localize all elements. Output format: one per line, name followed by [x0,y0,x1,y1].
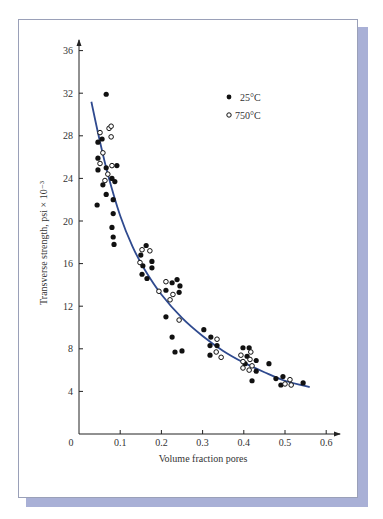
y-axis-arrow-icon [77,39,82,46]
open-circle-marker [148,249,153,254]
open-circle-marker [283,382,288,387]
open-circle-marker [109,124,114,129]
filled-circle-marker [95,156,100,161]
open-circle-marker [110,163,115,168]
x-tick-label: 0 [69,437,74,448]
open-circle-marker [98,130,103,135]
y-tick-label: 16 [63,258,73,269]
x-tick-label: 0.5 [279,437,292,448]
filled-circle-marker [301,380,306,385]
open-circle-marker [219,355,224,360]
x-tick-label: 0.4 [238,437,251,448]
x-tick-label: 0.3 [196,437,209,448]
filled-circle-marker [207,343,212,348]
open-circle-marker [249,350,254,355]
filled-circle-marker [144,243,149,248]
x-axis-title: Volume fraction pores [159,453,248,464]
filled-circle-marker [273,376,278,381]
open-circle-marker [214,350,219,355]
filled-circle-marker [177,290,182,295]
filled-circle-marker [214,343,219,348]
filled-circle-marker [163,314,168,319]
filled-circle-marker [174,277,179,282]
open-circle-marker [289,383,294,388]
y-tick-label: 28 [63,130,73,141]
filled-circle-marker [138,252,143,257]
filled-circle-marker [144,276,149,281]
filled-circle-marker [149,265,154,270]
open-circle-marker [157,289,162,294]
filled-circle-marker [114,163,119,168]
open-circle-marker [109,135,114,140]
legend-open-circle-icon [227,113,231,117]
x-axis-arrow-icon [334,432,341,437]
filled-circle-marker [207,353,212,358]
scatter-chart: 00.10.20.30.40.50.64812162024283236 25°C… [0,0,383,519]
y-axis-title: Transverse strength, psi × 10⁻³ [38,181,49,305]
legend-label: 25°C [240,92,261,103]
open-circle-marker [248,357,253,362]
open-circle-marker [168,298,173,303]
open-circle-marker [247,368,252,373]
filled-circle-marker [179,348,184,353]
open-circle-marker [101,151,106,156]
filled-circle-marker [266,361,271,366]
legend-label: 750°C [235,110,261,121]
filled-circle-marker [170,334,175,339]
filled-circle-marker [104,192,109,197]
y-tick-label: 4 [68,386,73,397]
open-circle-marker [241,359,246,364]
open-circle-marker [106,172,111,177]
y-tick-label: 20 [63,216,73,227]
filled-circle-marker [111,242,116,247]
y-tick-label: 32 [63,88,73,99]
x-tick-label: 0.2 [155,437,168,448]
open-circle-marker [138,260,143,265]
open-circle-marker [140,247,145,252]
filled-circle-marker [111,197,116,202]
filled-circle-marker [139,272,144,277]
fit-curve-line [91,102,309,387]
filled-circle-marker [149,259,154,264]
filled-circle-marker [280,374,285,379]
open-circle-marker [239,353,244,358]
open-circle-marker [164,279,169,284]
open-circle-marker [241,366,246,371]
open-circle-marker [177,318,182,323]
filled-circle-marker [95,140,100,145]
open-circle-marker [103,178,108,183]
axes: 00.10.20.30.40.50.64812162024283236 [63,39,341,448]
filled-circle-marker [163,288,168,293]
filled-circle-marker [99,136,104,141]
filled-circle-marker [109,225,114,230]
filled-circle-marker [111,234,116,239]
filled-circle-marker [240,345,245,350]
filled-circle-marker [111,211,116,216]
open-circle-marker [250,364,255,369]
filled-circle-marker [104,92,109,97]
y-tick-label: 8 [68,343,73,354]
y-tick-label: 12 [63,301,73,312]
filled-circle-marker [201,327,206,332]
filled-circle-marker [254,358,259,363]
open-circle-marker [288,377,293,382]
open-circle-marker [98,161,103,166]
x-tick-label: 0.1 [114,437,127,448]
filled-circle-marker [170,280,175,285]
filled-circle-marker [104,165,109,170]
filled-circle-marker [172,349,177,354]
data-points [95,92,306,388]
filled-circle-marker [177,283,182,288]
y-tick-label: 24 [63,173,73,184]
filled-circle-marker [95,202,100,207]
filled-circle-marker [95,167,100,172]
open-circle-marker [215,337,220,342]
fit-curve [91,102,309,387]
filled-circle-marker [112,179,117,184]
filled-circle-marker [249,378,254,383]
y-tick-label: 36 [63,45,73,56]
legend: 25°C750°C [227,92,261,121]
open-circle-marker [171,292,176,297]
legend-filled-circle-icon [227,95,232,100]
filled-circle-marker [254,369,259,374]
